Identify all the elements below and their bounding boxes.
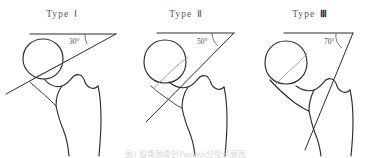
pauwels-angle-line <box>305 33 353 150</box>
femoral-shaft-medial-outline <box>56 106 69 156</box>
hip-anatomy-drawing-type-2: 50° <box>124 22 247 158</box>
figure-container: Type Ⅰ 30° <box>0 0 371 158</box>
femoral-shaft-medial-outline <box>182 108 195 156</box>
panel-title-type-1: Type Ⅰ <box>0 8 123 19</box>
panel-title-type-3: Type Ⅲ <box>248 8 371 19</box>
angle-arc <box>85 34 87 44</box>
fracture-line <box>274 53 307 86</box>
angle-label-type-3: 70° <box>324 37 335 46</box>
femoral-shaft-lateral-outline <box>98 86 101 156</box>
hip-anatomy-drawing-type-1: 30° <box>0 22 123 158</box>
angle-arc <box>336 33 342 48</box>
panel-title-numeral: Ⅲ <box>319 9 327 19</box>
panel-title-prefix: Type <box>169 9 192 19</box>
pauwels-angle-line <box>6 34 116 94</box>
femoral-head-outline <box>265 41 307 84</box>
figure-caption: 图1 股骨颈骨折Pauwels分型示意图 <box>0 150 371 158</box>
angle-arc <box>212 33 218 46</box>
femoral-shaft-lateral-outline <box>350 90 353 156</box>
greater-trochanter-outline <box>182 87 188 108</box>
femoral-neck-trochanter-outline <box>169 76 224 90</box>
femoral-neck-trochanter-outline <box>296 79 350 93</box>
panel-title-numeral: Ⅱ <box>196 9 202 19</box>
greater-trochanter-outline <box>309 90 314 111</box>
panel-title-prefix: Type <box>46 9 69 19</box>
panel-title-type-2: Type Ⅱ <box>124 8 247 19</box>
diagram-panel-type-3: Type Ⅲ 70° <box>248 0 371 158</box>
angle-label-type-1: 30° <box>69 37 80 46</box>
panel-title-numeral: Ⅰ <box>73 9 77 19</box>
pauwels-angle-line <box>146 33 234 122</box>
angle-label-type-2: 50° <box>197 37 208 46</box>
diagram-panel-type-2: Type Ⅱ 50° <box>124 0 247 158</box>
calcar-outline <box>151 86 182 108</box>
hip-anatomy-drawing-type-3: 70° <box>248 22 371 158</box>
diagram-panel-type-1: Type Ⅰ 30° <box>0 0 123 158</box>
panel-title-prefix: Type <box>292 9 315 19</box>
greater-trochanter-outline <box>56 86 62 106</box>
femoral-shaft-lateral-outline <box>224 87 227 156</box>
